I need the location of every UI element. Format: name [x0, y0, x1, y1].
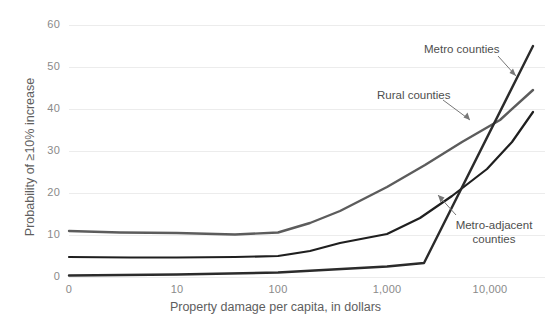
x-axis-title: Property damage per capita, in dollars [0, 300, 551, 314]
y-tick-label-60: 60 [36, 18, 60, 30]
x-tick-label-100: 100 [263, 283, 293, 295]
x-tick-label-0: 0 [56, 283, 82, 295]
y-tick-label-20: 20 [36, 186, 60, 198]
y-tick-label-50: 50 [36, 60, 60, 72]
annotation-rural-counties: Rural counties [377, 88, 451, 102]
x-tick-label-10000: 10,000 [466, 283, 514, 295]
annotation-metro-adjacent-line1: Metro-adjacent [456, 219, 533, 231]
y-tick-label-30: 30 [36, 144, 60, 156]
chart-container: 60 50 40 30 20 10 0 0 10 100 1,000 10,00… [0, 0, 551, 326]
x-tick-label-10: 10 [164, 283, 190, 295]
annotation-metro-adjacent-line2: counties [473, 233, 516, 245]
annotation-leader-lines [438, 56, 516, 215]
annotation-metro-adjacent-counties: Metro-adjacent counties [452, 218, 536, 246]
x-tick-label-1000: 1,000 [366, 283, 408, 295]
y-tick-label-0: 0 [36, 270, 60, 282]
y-axis-title: Probability of ≥10% increase [23, 47, 37, 267]
y-tick-label-40: 40 [36, 102, 60, 114]
series-line-rural-counties [69, 90, 533, 235]
annotation-metro-counties: Metro counties [424, 42, 499, 56]
y-tick-label-10: 10 [36, 228, 60, 240]
